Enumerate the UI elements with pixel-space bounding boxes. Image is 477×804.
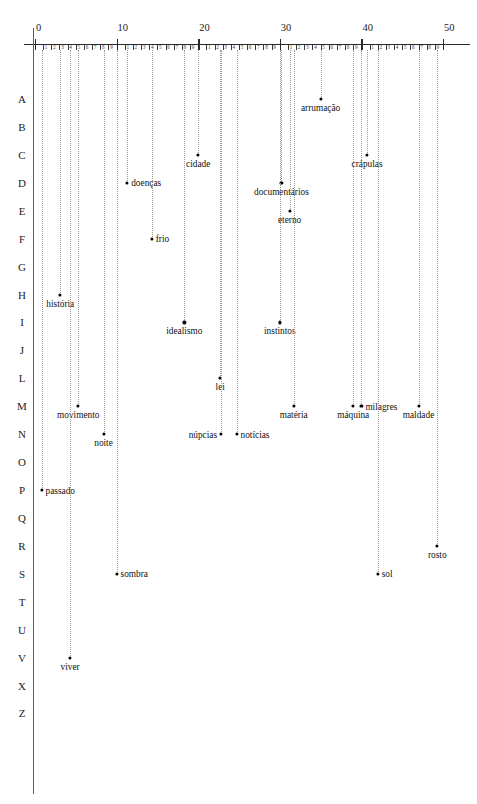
data-point[interactable]: [126, 181, 129, 184]
point-stem: [127, 50, 129, 183]
data-point[interactable]: [288, 209, 291, 212]
x-tick-label-minor: 2: [298, 44, 301, 50]
point-stem: [378, 50, 380, 574]
point-stem: [42, 50, 44, 490]
x-tick-label-minor: 9: [273, 44, 276, 50]
data-point-label: sombra: [121, 569, 148, 579]
x-tick-label-major: 40: [362, 22, 373, 33]
x-tick-major: [35, 39, 36, 50]
x-tick-label-minor: 5: [404, 44, 407, 50]
x-tick-major: [443, 39, 444, 50]
row-letter-q: Q: [16, 512, 28, 524]
point-stem: [237, 50, 239, 434]
row-letter-c: C: [16, 149, 28, 161]
x-tick-label-minor: 7: [175, 44, 178, 50]
point-stem: [437, 50, 439, 546]
row-letter-u: U: [16, 624, 28, 636]
x-tick-label-minor: 7: [257, 44, 260, 50]
data-point-label: milagres: [365, 402, 397, 412]
x-tick-label-minor: 4: [233, 44, 236, 50]
point-stem: [290, 50, 292, 211]
data-point[interactable]: [77, 405, 80, 408]
x-tick-label-minor: 5: [241, 44, 244, 50]
x-tick-label-minor: 7: [420, 44, 423, 50]
data-point[interactable]: [150, 237, 153, 240]
x-tick-label-minor: 3: [388, 44, 391, 50]
x-tick-label-minor: 6: [412, 44, 415, 50]
data-point[interactable]: [40, 488, 43, 491]
point-stem: [184, 50, 186, 322]
x-tick-major: [361, 39, 362, 50]
point-stem: [78, 50, 80, 406]
row-letter-h: H: [16, 289, 28, 301]
row-letter-o: O: [16, 456, 28, 468]
data-point[interactable]: [102, 433, 105, 436]
x-tick-label-minor: 4: [314, 44, 317, 50]
row-letter-n: N: [16, 428, 28, 440]
point-stem: [321, 50, 323, 99]
data-point[interactable]: [68, 656, 71, 659]
x-tick-label-major: 20: [199, 22, 210, 33]
point-stem: [361, 50, 363, 406]
row-letter-i: I: [16, 316, 28, 328]
x-tick-label-minor: 1: [208, 44, 211, 50]
row-letter-e: E: [16, 205, 28, 217]
data-point-label: doenças: [131, 178, 161, 188]
x-tick-label-minor: 9: [192, 44, 195, 50]
point-stem: [294, 50, 296, 406]
data-point-label: notícias: [241, 430, 270, 440]
row-letter-j: J: [16, 344, 28, 356]
point-stem: [117, 50, 119, 574]
data-point[interactable]: [319, 97, 322, 100]
data-point[interactable]: [219, 433, 222, 436]
x-tick-major: [280, 39, 281, 50]
data-point[interactable]: [436, 544, 439, 547]
data-point-label: matéria: [280, 410, 308, 420]
x-tick-label-minor: 4: [396, 44, 399, 50]
strip-plot-canvas: 0123456789101234567892012345678930123456…: [0, 0, 477, 804]
data-point-label: máquina: [337, 410, 369, 420]
data-point-label: rosto: [428, 550, 447, 560]
x-tick-label-minor: 6: [86, 44, 89, 50]
data-point[interactable]: [235, 433, 238, 436]
row-letter-x: X: [16, 680, 28, 692]
x-tick-label-major: 30: [281, 22, 292, 33]
row-letter-l: L: [16, 372, 28, 384]
data-point[interactable]: [376, 572, 379, 575]
row-letter-f: F: [16, 233, 28, 245]
data-point-label: movimento: [57, 410, 99, 420]
data-point[interactable]: [115, 572, 118, 575]
row-letter-b: B: [16, 121, 28, 133]
data-point[interactable]: [292, 405, 295, 408]
x-tick-label-minor: 8: [347, 44, 350, 50]
row-letter-a: A: [16, 93, 28, 105]
point-stem: [353, 50, 355, 406]
point-stem: [70, 50, 72, 658]
data-point-label: viver: [61, 662, 80, 672]
point-stem: [104, 50, 106, 434]
x-tick-label-minor: 2: [53, 44, 56, 50]
data-point[interactable]: [417, 405, 420, 408]
data-point[interactable]: [278, 321, 281, 324]
data-point[interactable]: [352, 405, 355, 408]
data-point[interactable]: [360, 405, 363, 408]
x-tick-label-minor: 7: [339, 44, 342, 50]
data-point-label: cidade: [186, 159, 210, 169]
x-tick-label-major: 50: [444, 22, 455, 33]
x-tick-label-minor: 1: [45, 44, 48, 50]
x-tick-label-minor: 6: [249, 44, 252, 50]
data-point-label: sol: [382, 569, 393, 579]
point-stem: [152, 50, 154, 239]
data-point[interactable]: [197, 153, 200, 156]
x-tick-label-minor: 6: [167, 44, 170, 50]
data-point-label: frio: [156, 234, 169, 244]
x-tick-label-minor: 3: [143, 44, 146, 50]
data-point[interactable]: [183, 321, 186, 324]
x-tick-label-minor: 9: [355, 44, 358, 50]
x-tick-label-minor: 2: [135, 44, 138, 50]
point-stem: [221, 50, 223, 434]
data-point[interactable]: [366, 153, 369, 156]
data-point[interactable]: [59, 293, 62, 296]
x-tick-label-minor: 1: [371, 44, 374, 50]
row-letter-s: S: [16, 568, 28, 580]
